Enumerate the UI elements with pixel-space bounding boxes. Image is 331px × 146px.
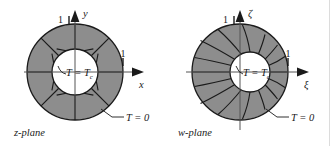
z-plane-outer-temperature-label: T = 0 (126, 112, 150, 123)
z-plane-horizontal-axis-label: x (138, 79, 144, 90)
w-plane-outer-temperature-label: T = 0 (291, 112, 315, 123)
figure-container: 1 1 y x T = Tc T = 0 z-plane (0, 0, 331, 146)
conformal-mapping-figure: 1 1 y x T = Tc T = 0 z-plane (0, 0, 331, 146)
z-plane-vertical-tick-label: 1 (58, 14, 63, 25)
w-plane-horizontal-axis-label: ξ (304, 79, 309, 91)
w-plane-panel: 1 1 ζ ξ T = Tc T = 0 w-plane (178, 8, 315, 138)
z-plane-horizontal-tick-label: 1 (121, 48, 126, 59)
z-plane-caption: z-plane (13, 127, 45, 138)
z-plane-panel: 1 1 y x T = Tc T = 0 z-plane (13, 8, 150, 138)
w-plane-vertical-axis-label: ζ (248, 8, 253, 20)
w-plane-horizontal-tick-label: 1 (286, 48, 291, 59)
w-plane-vertical-tick-label: 1 (223, 14, 228, 25)
z-plane-vertical-axis-label: y (82, 8, 88, 19)
w-plane-caption: w-plane (178, 127, 212, 138)
